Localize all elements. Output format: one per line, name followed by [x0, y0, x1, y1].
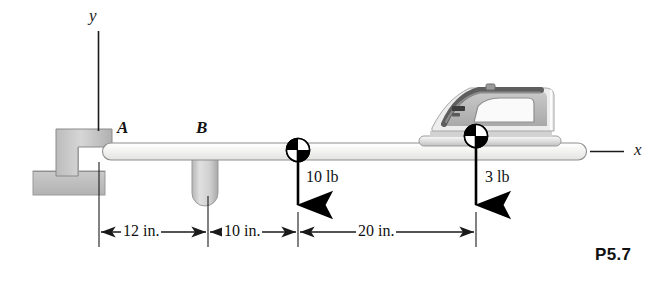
figure-canvas: y x A B 10 lb 3 lb 12 in. 10 in. 20 in. …	[0, 0, 665, 285]
dim-12in-label: 12 in.	[121, 223, 161, 239]
dim-20in-label: 20 in.	[356, 223, 396, 239]
point-label-b: B	[196, 119, 207, 136]
diagram-svg	[0, 0, 665, 285]
point-label-a: A	[117, 119, 128, 136]
dim-10in-label: 10 in.	[222, 223, 262, 239]
y-axis-label: y	[89, 7, 97, 24]
figure-label: P5.7	[595, 246, 631, 263]
x-axis-label: x	[634, 141, 642, 158]
load-10lb-label: 10 lb	[306, 169, 338, 185]
clothes-iron	[419, 84, 561, 146]
post-support-b	[192, 156, 218, 206]
load-3lb-label: 3 lb	[485, 169, 509, 185]
